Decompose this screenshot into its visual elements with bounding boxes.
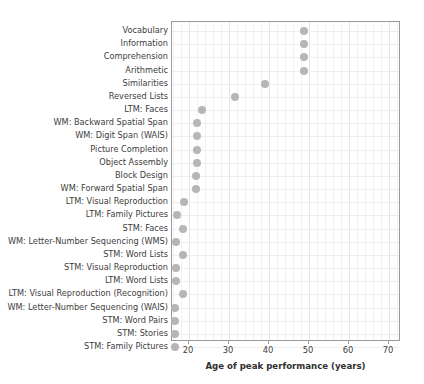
data-point [193, 159, 201, 167]
data-point [172, 277, 180, 285]
y-axis-label: Block Design [0, 170, 168, 179]
x-axis-title: Age of peak performance (years) [171, 361, 400, 371]
y-axis-label: LTM: Family Pictures [0, 210, 168, 219]
gridline-horizontal [172, 294, 399, 295]
y-axis-label: Information [0, 39, 168, 48]
y-axis-label: Picture Completion [0, 144, 168, 153]
data-point [171, 330, 179, 338]
data-point [171, 304, 179, 312]
y-axis-category-labels: VocabularyInformationComprehensionArithm… [0, 0, 168, 384]
data-point [173, 211, 181, 219]
gridline-horizontal [172, 308, 399, 309]
plot-area [171, 21, 400, 341]
data-point [172, 264, 180, 272]
y-axis-label: WM: Backward Spatial Span [0, 118, 168, 127]
gridline-horizontal [172, 57, 399, 58]
y-axis-label: STM: Stories [0, 328, 168, 337]
data-point [192, 185, 200, 193]
y-axis-label: LTM: Faces [0, 105, 168, 114]
data-point [300, 27, 308, 35]
data-point [179, 251, 187, 259]
data-point [300, 67, 308, 75]
gridline-horizontal [172, 123, 399, 124]
data-point [193, 146, 201, 154]
gridline-horizontal [172, 189, 399, 190]
gridline-horizontal [172, 242, 399, 243]
gridline-horizontal [172, 334, 399, 335]
gridline-horizontal [172, 44, 399, 45]
data-point [300, 40, 308, 48]
data-point [198, 106, 206, 114]
gridline-horizontal [172, 97, 399, 98]
y-axis-label: STM: Faces [0, 223, 168, 232]
y-axis-label: WM: Letter-Number Sequencing (WMS) [0, 236, 168, 245]
x-axis-tick-label: 50 [293, 345, 323, 355]
data-point [179, 225, 187, 233]
x-axis-tick-label: 70 [373, 345, 403, 355]
x-axis-tick-mark [228, 341, 229, 344]
gridline-horizontal [172, 31, 399, 32]
y-axis-label: Vocabulary [0, 26, 168, 35]
gridline-horizontal [172, 215, 399, 216]
y-axis-label: WM: Letter-Number Sequencing (WAIS) [0, 302, 168, 311]
gridline-horizontal [172, 71, 399, 72]
gridline-horizontal [172, 84, 399, 85]
data-point [172, 238, 180, 246]
gridline-horizontal [172, 136, 399, 137]
x-axis-tick-mark [348, 341, 349, 344]
y-axis-label: LTM: Visual Reproduction (Recognition) [0, 289, 168, 298]
y-axis-label: Reversed Lists [0, 91, 168, 100]
data-point [192, 172, 200, 180]
y-axis-label: STM: Word Pairs [0, 315, 168, 324]
gridline-horizontal [172, 347, 399, 348]
scatter-chart: VocabularyInformationComprehensionArithm… [0, 0, 424, 384]
y-axis-label: STM: Visual Reproduction [0, 263, 168, 272]
gridline-horizontal [172, 255, 399, 256]
gridline-horizontal [172, 281, 399, 282]
data-point [193, 132, 201, 140]
y-axis-label: WM: Digit Span (WAIS) [0, 131, 168, 140]
x-axis-tick-mark [268, 341, 269, 344]
x-axis-tick-mark [388, 341, 389, 344]
y-axis-label: Arithmetic [0, 65, 168, 74]
x-axis-tick-mark [308, 341, 309, 344]
data-point [179, 290, 187, 298]
data-point [261, 80, 269, 88]
y-axis-label: Object Assembly [0, 157, 168, 166]
data-point [300, 53, 308, 61]
x-axis-tick-label: 40 [253, 345, 283, 355]
y-axis-label: Similarities [0, 78, 168, 87]
gridline-horizontal [172, 110, 399, 111]
x-axis-tick-mark [188, 341, 189, 344]
gridline-horizontal [172, 321, 399, 322]
gridline-horizontal [172, 176, 399, 177]
y-axis-label: Comprehension [0, 52, 168, 61]
y-axis-label: LTM: Visual Reproduction [0, 197, 168, 206]
y-axis-label: LTM: Word Lists [0, 276, 168, 285]
data-point [231, 93, 239, 101]
gridline-horizontal [172, 229, 399, 230]
x-axis-tick-label: 60 [333, 345, 363, 355]
gridline-horizontal [172, 202, 399, 203]
data-point [193, 119, 201, 127]
gridline-horizontal [172, 268, 399, 269]
x-axis-tick-label: 20 [173, 345, 203, 355]
y-axis-label: WM: Forward Spatial Span [0, 184, 168, 193]
data-point [180, 198, 188, 206]
gridline-horizontal [172, 163, 399, 164]
y-axis-label: STM: Family Pictures [0, 342, 168, 351]
gridline-horizontal [172, 150, 399, 151]
y-axis-label: STM: Word Lists [0, 249, 168, 258]
x-axis-tick-label: 30 [213, 345, 243, 355]
data-point [171, 317, 179, 325]
